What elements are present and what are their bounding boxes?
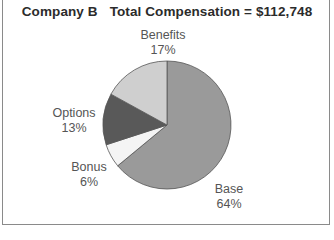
options-name: Options bbox=[52, 106, 95, 121]
base-name: Base bbox=[215, 182, 244, 197]
bonus-name: Bonus bbox=[71, 160, 106, 175]
options-percent: 13% bbox=[52, 121, 95, 136]
label-bonus: Bonus 6% bbox=[71, 160, 106, 190]
benefits-name: Benefits bbox=[140, 28, 185, 43]
label-benefits: Benefits 17% bbox=[140, 28, 185, 58]
bonus-percent: 6% bbox=[71, 175, 106, 190]
benefits-percent: 17% bbox=[140, 43, 185, 58]
base-percent: 64% bbox=[215, 197, 244, 212]
label-options: Options 13% bbox=[52, 106, 95, 136]
label-base: Base 64% bbox=[215, 182, 244, 212]
